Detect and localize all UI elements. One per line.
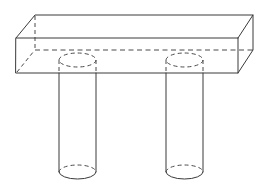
- slab-overlay-fill: [17, 16, 252, 72]
- slab-visible-edges: [16, 15, 253, 73]
- right-cylinder-body-fill: [166, 73, 203, 179]
- technical-drawing-svg: [0, 0, 264, 188]
- left-cylinder-body-fill: [59, 73, 96, 179]
- figure-canvas: [0, 0, 264, 188]
